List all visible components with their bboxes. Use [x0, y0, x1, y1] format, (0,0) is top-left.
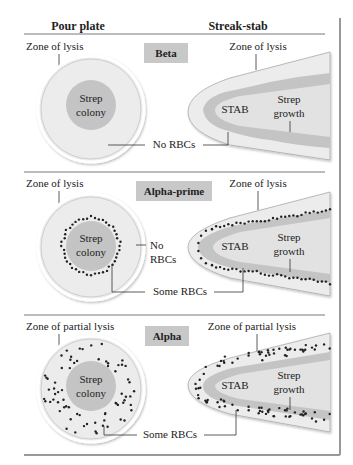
svg-text:Zone of partial lysis: Zone of partial lysis: [208, 320, 296, 332]
svg-text:Zone of lysis: Zone of lysis: [229, 177, 286, 189]
svg-text:Zone of lysis: Zone of lysis: [26, 177, 83, 189]
svg-text:growth: growth: [273, 383, 305, 395]
rbc-label: No RBCs: [153, 138, 196, 150]
stab-zone-label: Zone of lysis: [229, 40, 286, 52]
hemolysis-diagram: Pour plate Streak-stab Zone of lysis Bet…: [0, 0, 353, 465]
svg-text:STAB: STAB: [221, 240, 248, 252]
panel-beta: Zone of lysis Beta Strep colony Zone of …: [26, 40, 330, 162]
panel-alpha-prime: Zone of lysis Alpha-prime Strep colony N…: [26, 177, 331, 300]
svg-text:Zone of partial lysis: Zone of partial lysis: [26, 320, 114, 332]
svg-text:growth: growth: [273, 245, 305, 257]
svg-text:Some RBCs: Some RBCs: [153, 285, 207, 297]
svg-text:Strep: Strep: [277, 231, 301, 243]
svg-text:Strep: Strep: [79, 373, 103, 385]
svg-text:Strep: Strep: [277, 93, 301, 105]
svg-text:growth: growth: [273, 107, 305, 119]
strep-colony: [66, 80, 116, 130]
plate-zone-label: Zone of lysis: [26, 40, 83, 52]
svg-text:STAB: STAB: [221, 379, 248, 391]
svg-text:RBCs: RBCs: [150, 253, 176, 265]
header-pour-plate: Pour plate: [51, 19, 105, 33]
svg-text:No: No: [150, 239, 164, 251]
svg-text:colony: colony: [76, 387, 106, 399]
svg-text:Strep: Strep: [277, 369, 301, 381]
type-badge-label: Beta: [155, 47, 177, 59]
strep-colony: [66, 361, 116, 411]
svg-text:Alpha: Alpha: [153, 330, 182, 342]
svg-text:colony: colony: [76, 246, 106, 258]
svg-text:Alpha-prime: Alpha-prime: [144, 185, 205, 197]
panel-alpha: Zone of partial lysis Alpha Strep colony…: [26, 320, 331, 442]
header-streak-stab: Streak-stab: [208, 19, 267, 33]
svg-text:colony: colony: [76, 106, 106, 118]
svg-text:Some RBCs: Some RBCs: [143, 428, 197, 440]
svg-text:Strep: Strep: [79, 92, 103, 104]
svg-text:Strep: Strep: [79, 232, 103, 244]
svg-text:STAB: STAB: [221, 103, 248, 115]
